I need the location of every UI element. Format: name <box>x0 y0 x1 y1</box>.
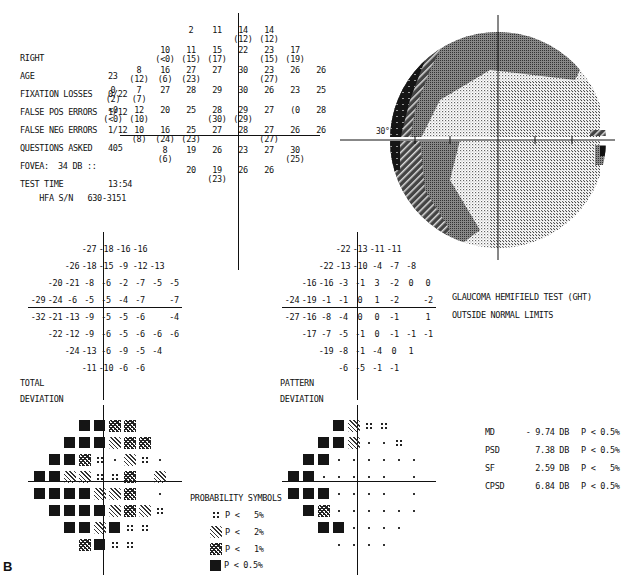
probability-symbol-icon <box>333 454 345 466</box>
probability-symbol-icon <box>139 437 151 449</box>
threshold-value: 26 <box>308 66 334 75</box>
threshold-value: 19 <box>178 146 204 155</box>
probability-symbol-icon <box>79 488 90 499</box>
probability-symbol-icon <box>64 505 75 516</box>
threshold-retest: (<0) <box>100 115 126 124</box>
deviation-value: -8 <box>401 261 421 271</box>
probability-symbol-icon <box>393 522 405 534</box>
greyscale-plot: 30° <box>340 0 623 260</box>
threshold-value: 14(12) <box>256 26 282 44</box>
probability-symbol-icon <box>348 437 360 449</box>
index-value: 7.38 DB <box>513 445 569 455</box>
index-value: 6.84 DB <box>513 481 569 491</box>
threshold-first: 27 <box>152 86 178 95</box>
deviation-value: 0 <box>418 278 438 288</box>
probability-symbol-icon <box>378 488 390 500</box>
threshold-value: 28 <box>178 86 204 95</box>
probability-symbol-icon <box>154 471 166 483</box>
probability-symbol-icon <box>318 505 330 517</box>
probability-symbol-icon <box>333 420 344 431</box>
probability-symbol-icon <box>49 454 60 465</box>
probability-symbol-icon <box>380 422 388 430</box>
threshold-value: <0(<0) <box>100 106 126 124</box>
global-index-row: MD- 9.74 DBP < 0.5% <box>485 427 623 437</box>
deviation-value: -7 <box>164 295 184 305</box>
index-name: MD <box>485 427 513 437</box>
threshold-value: 0(2) <box>100 86 126 104</box>
threshold-value: 16(24) <box>152 126 178 144</box>
threshold-retest: (23) <box>204 175 230 184</box>
probability-symbol-icon <box>79 539 91 551</box>
probability-symbol-icon <box>49 488 60 499</box>
threshold-retest: (12) <box>126 75 152 84</box>
probability-symbol-icon <box>109 437 121 449</box>
probability-symbol-icon <box>96 456 104 464</box>
probability-symbol-icon <box>333 522 344 533</box>
probability-symbol-icon <box>333 505 345 517</box>
probability-symbol-icon <box>79 505 90 516</box>
probability-symbol-icon <box>378 454 390 466</box>
threshold-retest: (23) <box>178 75 204 84</box>
probability-symbol-icon <box>34 471 45 482</box>
legend-symbol-icon <box>212 511 220 519</box>
probability-symbol-icon <box>64 471 76 483</box>
threshold-first: 27 <box>204 66 230 75</box>
threshold-value: 20 <box>178 166 204 175</box>
probability-symbol-icon <box>395 439 403 447</box>
probability-symbol-icon <box>363 505 375 517</box>
probability-symbol-icon <box>378 471 390 483</box>
deviation-value: -5 <box>164 278 184 288</box>
probability-symbol-icon <box>126 541 134 549</box>
ght-title: GLAUCOMA HEMIFIELD TEST (GHT) <box>452 292 592 302</box>
index-name: PSD <box>485 445 513 455</box>
threshold-value: 2 <box>178 26 204 35</box>
probability-symbol-icon <box>348 471 360 483</box>
threshold-first: 26 <box>282 66 308 75</box>
pd-title-2: DEVIATION <box>280 394 323 404</box>
probability-symbol-icon <box>109 522 120 533</box>
threshold-retest: (27) <box>256 135 282 144</box>
probability-symbol-icon <box>154 454 166 466</box>
threshold-value: 8(12) <box>126 66 152 84</box>
threshold-value: 17(19) <box>282 46 308 64</box>
probability-symbol-icon <box>378 505 390 517</box>
probability-symbol-icon <box>318 471 330 483</box>
legend-symbol-icon <box>210 526 222 538</box>
probability-symbol-icon <box>393 454 405 466</box>
threshold-value: 27 <box>256 146 282 155</box>
deviation-value: -11 <box>384 244 404 254</box>
threshold-first: 23 <box>282 86 308 95</box>
threshold-value: (0 <box>282 106 308 115</box>
probability-symbol-icon <box>49 505 60 516</box>
index-probability: P < 5% <box>581 463 620 473</box>
threshold-first: (0 <box>282 106 308 115</box>
probability-symbol-icon <box>363 471 375 483</box>
legend-text: P < 2% <box>225 527 264 537</box>
threshold-first: 30 <box>230 66 256 75</box>
threshold-retest: (27) <box>256 75 282 84</box>
threshold-retest: (12) <box>256 35 282 44</box>
threshold-retest: (15) <box>256 55 282 64</box>
td-title-2: DEVIATION <box>20 394 63 404</box>
threshold-value: 7(7) <box>126 86 152 104</box>
threshold-value: 11(15) <box>178 46 204 64</box>
threshold-value: 25(23) <box>178 126 204 144</box>
threshold-retest: (29) <box>230 115 256 124</box>
probability-symbol-icon <box>124 488 136 500</box>
threshold-retest: (25) <box>282 155 308 164</box>
index-probability: P < 0.5% <box>581 427 620 437</box>
threshold-value: 25 <box>178 106 204 115</box>
probability-symbol-icon <box>64 454 75 465</box>
threshold-value: 23(15) <box>256 46 282 64</box>
deviation-value: -6 <box>130 312 150 322</box>
threshold-value: 27 <box>204 66 230 75</box>
threshold-value: 28 <box>230 126 256 135</box>
threshold-retest: (15) <box>178 55 204 64</box>
threshold-value: 23(27) <box>256 66 282 84</box>
threshold-retest: (19) <box>282 55 308 64</box>
degree-label: 30° <box>376 127 390 136</box>
probability-symbol-icon <box>124 505 136 517</box>
probability-symbol-icon <box>124 420 136 432</box>
probability-symbol-icon <box>79 437 90 448</box>
threshold-value: 26 <box>308 126 334 135</box>
